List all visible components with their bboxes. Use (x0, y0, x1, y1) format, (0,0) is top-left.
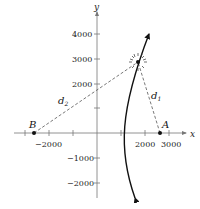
segment-d2 (34, 62, 138, 133)
point-b (32, 131, 36, 135)
y-axis-label: y (93, 2, 100, 12)
hyperbola-diagram: x y −2000 2000 3000 4000 3000 2000 −1000… (0, 0, 200, 209)
point-b-label: B (28, 119, 36, 130)
x-tick-label-neg2000: −2000 (35, 140, 62, 149)
y-tick-label-3000: 3000 (72, 55, 92, 64)
y-tick-label-2000: 2000 (72, 80, 92, 89)
d2-label: d2 (58, 95, 68, 107)
point-a-label: A (161, 119, 169, 130)
y-tick-label-neg1000: −1000 (67, 154, 94, 163)
point-a (158, 131, 162, 135)
source-point (136, 60, 140, 64)
d1-label: d1 (151, 90, 161, 102)
x-axis-label: x (190, 129, 195, 139)
x-tick-label-2000: 2000 (135, 140, 155, 149)
hyperbola-branch (124, 34, 149, 198)
x-tick-label-3000: 3000 (161, 140, 181, 149)
y-tick-label-neg2000: −2000 (67, 179, 94, 188)
y-tick-label-4000: 4000 (72, 30, 92, 39)
